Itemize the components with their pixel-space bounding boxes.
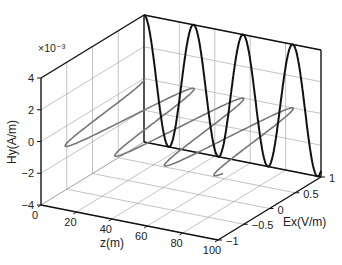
z-tick-label: 60 — [135, 230, 147, 242]
3d-wave-plot: 020406080100−1−0.500.51−4−2024z(m)Ex(V/m… — [0, 0, 342, 265]
z-tick-label: 80 — [170, 237, 182, 249]
ex-axis-label: Ex(V/m) — [283, 215, 326, 229]
hy-tick-label: 0 — [28, 136, 34, 148]
z-tick-label: 20 — [64, 216, 76, 228]
hy-tick-label: 2 — [28, 104, 34, 116]
ex-tick-label: −1 — [226, 235, 239, 247]
hy-tick-label: 4 — [28, 72, 34, 84]
floor-grid-line — [67, 189, 244, 224]
hy-scale-label: ×10⁻³ — [38, 42, 66, 54]
hy-wave-curve — [144, 15, 321, 176]
z-tick-label: 40 — [100, 223, 112, 235]
ex-tick-label: 0.5 — [303, 188, 318, 200]
ex-tick-label: −0.5 — [252, 219, 274, 231]
hy-axis-label: Hy(A/m) — [5, 120, 19, 164]
floor-grid-line — [118, 158, 295, 193]
ex-tick-label: 1 — [329, 172, 335, 184]
back-wall-grid-line — [144, 110, 321, 145]
hy-tick-label: −2 — [21, 167, 34, 179]
floor-grid-line — [93, 174, 270, 209]
z-tick-label: 100 — [203, 244, 221, 256]
ex-tick-label: 0 — [278, 204, 284, 216]
hy-tick-label: −4 — [21, 199, 34, 211]
z-axis-label: z(m) — [100, 236, 124, 250]
